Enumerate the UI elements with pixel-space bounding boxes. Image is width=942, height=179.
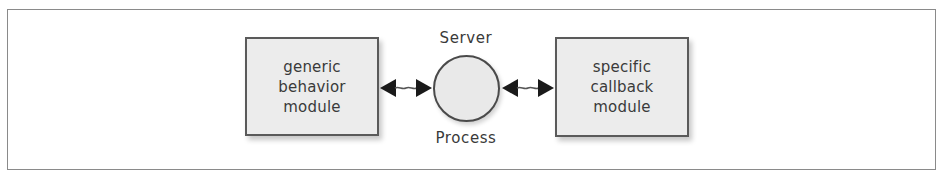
bidirectional-arrow-icon: [379, 76, 433, 100]
module-label-line: callback: [590, 77, 653, 97]
module-label-line: specific: [590, 57, 653, 77]
server-label: Server: [406, 29, 526, 47]
process-label: Process: [406, 129, 526, 147]
specific-callback-module-box: specific callback module: [555, 37, 689, 137]
module-label-line: behavior: [278, 77, 345, 97]
module-label-line: module: [278, 97, 345, 117]
generic-behavior-module-box: generic behavior module: [245, 37, 379, 136]
bidirectional-arrow-icon: [501, 76, 555, 100]
generic-behavior-module-label: generic behavior module: [278, 57, 345, 117]
server-process-circle: [433, 55, 500, 122]
module-label-line: module: [590, 97, 653, 117]
specific-callback-module-label: specific callback module: [590, 57, 653, 117]
module-label-line: generic: [278, 57, 345, 77]
